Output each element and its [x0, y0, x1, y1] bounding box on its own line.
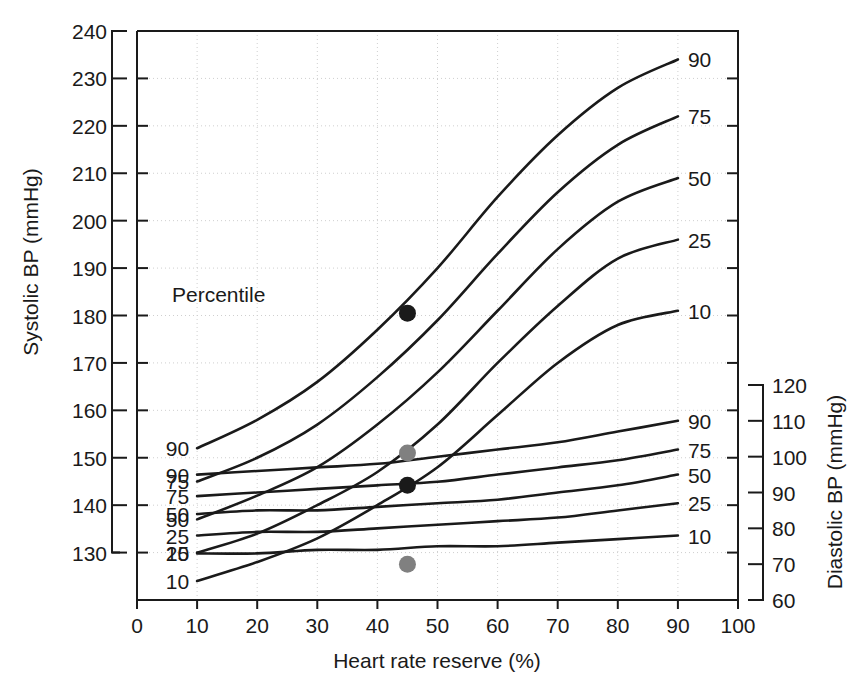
- diastolic-curve-label-left-p50: 50: [166, 503, 189, 526]
- y-tick-label: 150: [72, 447, 107, 470]
- x-tick-label: 60: [486, 614, 509, 637]
- x-tick-label: 40: [366, 614, 389, 637]
- x-axis-title: Heart rate reserve (%): [333, 649, 541, 672]
- x-tick-label: 50: [426, 614, 449, 637]
- systolic-curve-label-left-p10: 10: [166, 570, 189, 593]
- x-tick-label: 20: [246, 614, 269, 637]
- x-tick-label: 100: [720, 614, 755, 637]
- y2-tick-label: 100: [772, 446, 807, 469]
- y2-tick-label: 120: [772, 374, 807, 397]
- x-tick-label: 30: [306, 614, 329, 637]
- systolic-curve-label-right-p10: 10: [688, 300, 711, 323]
- x-tick-label: 80: [606, 614, 629, 637]
- x-tick-label: 0: [131, 614, 143, 637]
- y-tick-label: 230: [72, 67, 107, 90]
- systolic-curve-label-right-p25: 25: [688, 229, 711, 252]
- y-tick-label: 240: [72, 20, 107, 43]
- y2-tick-label: 80: [772, 517, 795, 540]
- y2-tick-label: 110: [772, 410, 805, 433]
- diastolic-curve-label-left-p90: 90: [166, 464, 189, 487]
- diastolic-curve-label-left-p10: 10: [166, 542, 189, 565]
- y2-tick-label: 60: [772, 589, 795, 612]
- systolic-black-point: [399, 305, 416, 322]
- diastolic-curve-label-right-p50: 50: [688, 464, 711, 487]
- systolic-curve-label-right-p75: 75: [688, 105, 711, 128]
- y-tick-label: 200: [72, 210, 107, 233]
- systolic-curve-label-right-p50: 50: [688, 167, 711, 190]
- systolic-curve-label-right-p90: 90: [688, 48, 711, 71]
- y-axis-title: Systolic BP (mmHg): [19, 168, 42, 355]
- diastolic-gray-point: [399, 556, 416, 573]
- y-tick-label: 130: [72, 542, 107, 565]
- x-tick-label: 70: [546, 614, 569, 637]
- y2-tick-label: 70: [772, 553, 795, 576]
- systolic-gray-point: [399, 445, 416, 462]
- x-tick-label: 90: [666, 614, 689, 637]
- y-tick-label: 170: [72, 352, 107, 375]
- diastolic-curve-label-right-p25: 25: [688, 492, 711, 515]
- diastolic-curve-label-right-p10: 10: [688, 525, 711, 548]
- y-tick-label: 190: [72, 257, 107, 280]
- x-tick-label: 10: [185, 614, 208, 637]
- y-tick-label: 210: [72, 162, 107, 185]
- y-tick-label: 220: [72, 115, 107, 138]
- systolic-curve-label-left-p90: 90: [166, 437, 189, 460]
- diastolic-black-point: [399, 477, 416, 494]
- y-tick-label: 180: [72, 305, 107, 328]
- percentile-legend-title: Percentile: [172, 283, 265, 306]
- y2-axis-title: Diastolic BP (mmHg): [823, 395, 846, 589]
- diastolic-curve-label-right-p75: 75: [688, 439, 711, 462]
- y-tick-label: 160: [72, 399, 107, 422]
- y-tick-label: 140: [72, 494, 107, 517]
- diastolic-curve-label-right-p90: 90: [688, 410, 711, 433]
- chart-background: [0, 0, 867, 683]
- bp-percentile-chart: 0102030405060708090100 13014015016017018…: [0, 0, 867, 683]
- y2-tick-label: 90: [772, 482, 795, 505]
- chart-figure: 0102030405060708090100 13014015016017018…: [0, 0, 867, 683]
